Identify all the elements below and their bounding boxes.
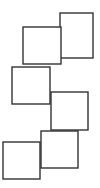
square-3 [12, 67, 50, 104]
diagram-canvas [0, 0, 100, 188]
square-2 [23, 27, 61, 64]
square-4 [51, 92, 88, 130]
square-1 [60, 13, 93, 58]
overlapping-squares-figure [0, 0, 100, 188]
square-5 [41, 131, 78, 168]
square-6 [3, 142, 40, 179]
